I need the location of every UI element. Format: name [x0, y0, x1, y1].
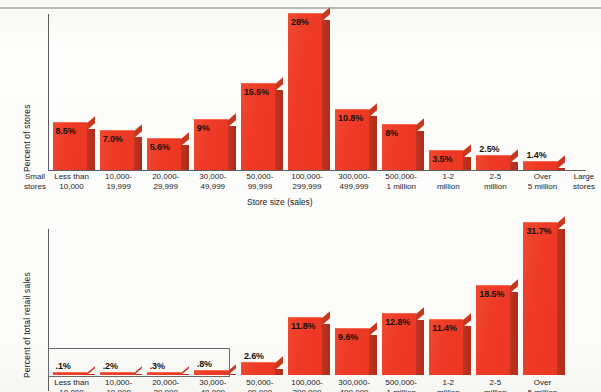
x-tick-label: Over 5 million: [516, 172, 569, 192]
bar-side-face: [87, 129, 95, 170]
bar: [523, 162, 565, 170]
x-tick-label: 20,000- 29,999: [139, 378, 192, 392]
bar-side-face: [510, 292, 518, 375]
x-tick-label: Over 5 million: [516, 378, 569, 392]
bar-side-face: [463, 157, 471, 171]
bar-value-label: 2.6%: [244, 351, 264, 361]
bar: [288, 14, 330, 170]
bar-value-label: 12.8%: [385, 317, 410, 327]
x-tick-label: 300,000- 499,999: [328, 378, 381, 392]
bar: [523, 223, 565, 375]
bar-value-label: 1.4%: [526, 150, 546, 160]
x-axis-left-edge-label: Small stores: [18, 172, 52, 192]
bar-side-face: [416, 320, 424, 375]
bar-side-face: [322, 20, 330, 170]
bar-side-face: [275, 369, 283, 375]
bar-value-label: 15.5%: [244, 87, 269, 97]
x-tick-label: 2-5 million: [469, 172, 522, 192]
bar-side-face: [557, 229, 565, 375]
bar-side-face: [369, 116, 377, 170]
x-axis-right-edge-label: Large stores: [567, 172, 601, 192]
top-rule: [0, 7, 601, 9]
bar-value-label: 18.5%: [479, 289, 504, 299]
bar-value-label: 9.6%: [338, 332, 358, 342]
bar-value-label: 28%: [291, 17, 309, 27]
bar-side-face: [510, 162, 518, 170]
small-values-inset-box: [48, 348, 230, 377]
figure-page: Percent of stores 8.5%7.0%5.6%9%15.5%28%…: [0, 0, 601, 392]
bar-value-label: 31.7%: [526, 226, 551, 236]
bar-side-face: [557, 168, 565, 170]
x-tick-label: 30,000- 49,999: [186, 378, 239, 392]
top-chart-y-axis: [48, 14, 49, 171]
bar-value-label: 8.5%: [56, 126, 76, 136]
x-tick-label: Less than 10,000: [45, 172, 98, 192]
x-tick-label: 500,000- 1 million: [375, 172, 428, 192]
bar-front-face: [288, 13, 322, 170]
x-tick-label: 50,000- 99,999: [233, 378, 286, 392]
bar-value-label: 7.0%: [103, 134, 123, 144]
x-tick-label: 10,000- 19,999: [92, 378, 145, 392]
bar-value-label: 10.8%: [338, 113, 363, 123]
x-tick-label: 20,000- 29,999: [139, 172, 192, 192]
x-tick-label: 50,000- 99,999: [233, 172, 286, 192]
bar-value-label: 11.8%: [291, 321, 316, 331]
bar-front-face: [476, 155, 510, 170]
bar: [476, 286, 518, 375]
bar-value-label: 5.6%: [150, 142, 170, 152]
x-tick-label: 30,000- 49,999: [186, 172, 239, 192]
bar-side-face: [228, 126, 236, 170]
top-chart-x-axis: [48, 170, 586, 171]
x-tick-label: 1-2 million: [422, 378, 475, 392]
x-tick-label: 300,000- 499,999: [328, 172, 381, 192]
x-tick-label: 2-5 million: [469, 378, 522, 392]
bar-side-face: [416, 131, 424, 170]
bottom-chart-y-axis-label: Percent of total retail sales: [22, 233, 32, 378]
bar-value-label: 11.4%: [432, 323, 457, 333]
x-tick-label: Less than 10,000: [45, 378, 98, 392]
bar: [241, 363, 283, 375]
bar-value-label: 8%: [385, 128, 398, 138]
bar-value-label: 2.5%: [479, 144, 499, 154]
bar-side-face: [134, 137, 142, 170]
bar-side-face: [322, 324, 330, 375]
x-tick-label: 100,000- 299,999: [280, 172, 333, 192]
bar-side-face: [463, 326, 471, 375]
x-axis-title: Store size (sales): [247, 197, 313, 207]
bar-side-face: [181, 145, 189, 170]
x-tick-label: 1-2 million: [422, 172, 475, 192]
x-tick-label: 500,000- 1 million: [375, 378, 428, 392]
bar-front-face: [241, 362, 275, 375]
bar-front-face: [523, 222, 557, 375]
bar-value-label: 9%: [197, 123, 210, 133]
bar: [476, 156, 518, 170]
bar-side-face: [275, 90, 283, 170]
top-chart-y-axis-label: Percent of stores: [22, 62, 32, 172]
bar-side-face: [369, 335, 377, 375]
bar-front-face: [523, 161, 557, 170]
x-tick-label: 10,000- 19,999: [92, 172, 145, 192]
bar-value-label: 3.5%: [432, 154, 452, 164]
x-tick-label: 100,000- 299,999: [280, 378, 333, 392]
